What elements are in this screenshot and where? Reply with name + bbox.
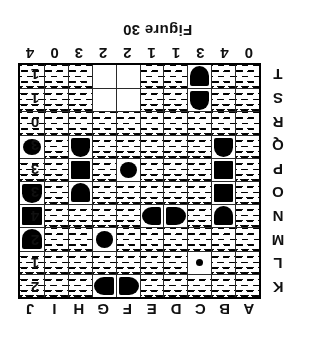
cell-HL[interactable] — [68, 251, 92, 274]
column-label-5: F — [115, 299, 139, 319]
cell-BT[interactable] — [211, 65, 235, 88]
cell-CT[interactable] — [187, 65, 211, 88]
cell-GO[interactable] — [92, 181, 116, 204]
cell-HM[interactable] — [68, 227, 92, 250]
cell-HP[interactable] — [68, 158, 92, 181]
cell-DM[interactable] — [163, 227, 187, 250]
cell-AN[interactable] — [235, 204, 259, 227]
column-clue-6: 2 — [91, 43, 115, 63]
column-clue-0: 0 — [237, 43, 261, 63]
battleship-puzzle: ABCDEFGHIJ KLMNOPQRST 2124333011 0431122… — [18, 43, 297, 319]
row-clue-3: 4 — [18, 205, 52, 229]
cell-AR[interactable] — [235, 111, 259, 134]
cell-DL[interactable] — [163, 251, 187, 274]
cell-CK[interactable] — [187, 274, 211, 297]
cell-DP[interactable] — [163, 158, 187, 181]
cell-ET[interactable] — [140, 65, 164, 88]
cell-GP[interactable] — [92, 158, 116, 181]
cell-GN[interactable] — [92, 204, 116, 227]
cell-GM[interactable] — [92, 227, 116, 250]
column-label-2: C — [188, 299, 212, 319]
cell-DR[interactable] — [163, 111, 187, 134]
cell-EN[interactable] — [140, 204, 164, 227]
cell-FR[interactable] — [116, 111, 140, 134]
cell-FO[interactable] — [116, 181, 140, 204]
cell-FS[interactable] — [116, 88, 140, 111]
cell-EO[interactable] — [140, 181, 164, 204]
cell-BS[interactable] — [211, 88, 235, 111]
row-clue-9: 1 — [18, 63, 52, 87]
ship-segment-icon — [214, 184, 233, 202]
cell-FT[interactable] — [116, 65, 140, 88]
cell-GR[interactable] — [92, 111, 116, 134]
cell-EP[interactable] — [140, 158, 164, 181]
row-labels: KLMNOPQRST — [261, 63, 295, 299]
cell-CS[interactable] — [187, 88, 211, 111]
cell-FP[interactable] — [116, 158, 140, 181]
cell-DS[interactable] — [163, 88, 187, 111]
cell-DN[interactable] — [163, 204, 187, 227]
cell-GT[interactable] — [92, 65, 116, 88]
cell-BL[interactable] — [211, 251, 235, 274]
column-clue-2: 3 — [188, 43, 212, 63]
cell-AT[interactable] — [235, 65, 259, 88]
cell-CN[interactable] — [187, 204, 211, 227]
cell-BO[interactable] — [211, 181, 235, 204]
cell-BN[interactable] — [211, 204, 235, 227]
cell-BM[interactable] — [211, 227, 235, 250]
ship-segment-icon — [214, 206, 233, 225]
cell-FK[interactable] — [116, 274, 140, 297]
cell-GL[interactable] — [92, 251, 116, 274]
cell-CO[interactable] — [187, 181, 211, 204]
cell-HN[interactable] — [68, 204, 92, 227]
cell-HQ[interactable] — [68, 135, 92, 158]
cell-DT[interactable] — [163, 65, 187, 88]
puzzle-grid — [20, 65, 259, 297]
cell-GS[interactable] — [92, 88, 116, 111]
column-label-6: G — [91, 299, 115, 319]
row-label-9: T — [261, 63, 295, 87]
column-clue-7: 3 — [67, 43, 91, 63]
cell-BQ[interactable] — [211, 135, 235, 158]
cell-HT[interactable] — [68, 65, 92, 88]
cell-FN[interactable] — [116, 204, 140, 227]
cell-CR[interactable] — [187, 111, 211, 134]
cell-FQ[interactable] — [116, 135, 140, 158]
cell-EL[interactable] — [140, 251, 164, 274]
cell-AO[interactable] — [235, 181, 259, 204]
column-label-7: H — [67, 299, 91, 319]
cell-HK[interactable] — [68, 274, 92, 297]
cell-GQ[interactable] — [92, 135, 116, 158]
cell-EQ[interactable] — [140, 135, 164, 158]
cell-AK[interactable] — [235, 274, 259, 297]
cell-CP[interactable] — [187, 158, 211, 181]
cell-ER[interactable] — [140, 111, 164, 134]
cell-EM[interactable] — [140, 227, 164, 250]
cell-EK[interactable] — [140, 274, 164, 297]
cell-CL[interactable] — [187, 251, 211, 274]
cell-BK[interactable] — [211, 274, 235, 297]
cell-BR[interactable] — [211, 111, 235, 134]
ship-segment-icon — [94, 277, 114, 295]
cell-GK[interactable] — [92, 274, 116, 297]
puzzle-board[interactable] — [18, 63, 261, 299]
cell-DQ[interactable] — [163, 135, 187, 158]
cell-CQ[interactable] — [187, 135, 211, 158]
cell-ES[interactable] — [140, 88, 164, 111]
column-label-3: D — [164, 299, 188, 319]
cell-FM[interactable] — [116, 227, 140, 250]
cell-AP[interactable] — [235, 158, 259, 181]
cell-HS[interactable] — [68, 88, 92, 111]
cell-CM[interactable] — [187, 227, 211, 250]
cell-HO[interactable] — [68, 181, 92, 204]
cell-DO[interactable] — [163, 181, 187, 204]
cell-HR[interactable] — [68, 111, 92, 134]
row-label-7: R — [261, 110, 295, 134]
cell-AM[interactable] — [235, 227, 259, 250]
cell-AQ[interactable] — [235, 135, 259, 158]
cell-DK[interactable] — [163, 274, 187, 297]
cell-BP[interactable] — [211, 158, 235, 181]
cell-AS[interactable] — [235, 88, 259, 111]
cell-FL[interactable] — [116, 251, 140, 274]
cell-AL[interactable] — [235, 251, 259, 274]
